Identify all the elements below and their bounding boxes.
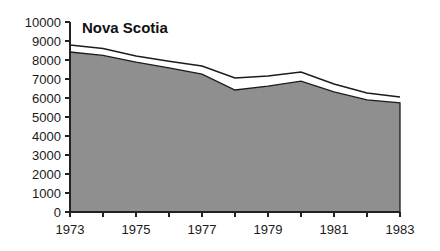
y-tick-label: 0 — [54, 205, 61, 220]
area-chart: 0100020003000400050006000700080009000100… — [0, 0, 440, 251]
x-tick-label: 1981 — [320, 222, 349, 237]
y-tick-label: 4000 — [32, 129, 61, 144]
y-tick-label: 9000 — [32, 34, 61, 49]
y-tick-label: 2000 — [32, 167, 61, 182]
y-tick-label: 10000 — [25, 15, 61, 30]
y-tick-label: 8000 — [32, 53, 61, 68]
chart-container: 0100020003000400050006000700080009000100… — [0, 0, 440, 251]
y-axis-ticks — [65, 22, 70, 212]
y-tick-label: 7000 — [32, 72, 61, 87]
x-tick-label: 1977 — [188, 222, 217, 237]
y-tick-label: 3000 — [32, 148, 61, 163]
y-tick-label: 5000 — [32, 110, 61, 125]
x-axis-tick-labels: 197319751977197919811983 — [56, 222, 415, 237]
x-tick-label: 1983 — [386, 222, 415, 237]
y-tick-label: 1000 — [32, 186, 61, 201]
y-tick-label: 6000 — [32, 91, 61, 106]
y-axis-tick-labels: 0100020003000400050006000700080009000100… — [25, 15, 61, 220]
plot-area — [70, 45, 400, 212]
x-tick-label: 1973 — [56, 222, 85, 237]
x-tick-label: 1975 — [122, 222, 151, 237]
chart-title: Nova Scotia — [82, 19, 169, 36]
x-tick-label: 1979 — [254, 222, 283, 237]
shaded-area-series — [70, 52, 400, 212]
x-axis-ticks — [70, 212, 400, 217]
